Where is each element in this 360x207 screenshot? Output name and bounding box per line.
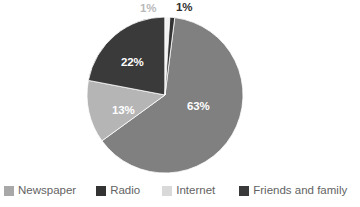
pie-chart-page: 63% 22% 13% 1% 1% Newspaper Radio Intern… xyxy=(0,0,360,207)
slice-label-newspaper: 63% xyxy=(187,101,210,113)
pie-chart-svg xyxy=(0,0,360,178)
pie-slice-group xyxy=(87,17,243,173)
pie-chart-plot-area: 63% 22% 13% 1% 1% xyxy=(0,0,360,178)
slice-label-friends-and-family: 22% xyxy=(121,57,144,69)
legend-item-friends-and-family[interactable]: Friends and family xyxy=(239,185,347,197)
legend-label-friends-and-family: Friends and family xyxy=(253,185,347,197)
legend-label-radio: Radio xyxy=(110,185,140,197)
legend-swatch-icon-friends-and-family xyxy=(239,186,249,196)
legend-label-newspaper: Newspaper xyxy=(18,185,76,197)
legend-item-internet[interactable]: Internet xyxy=(162,185,215,197)
legend-swatch-icon-newspaper xyxy=(4,186,14,196)
chart-legend: Newspaper Radio Internet Friends and fam… xyxy=(0,179,360,203)
legend-item-radio[interactable]: Radio xyxy=(96,185,140,197)
slice-label-radio: 1% xyxy=(176,2,192,14)
legend-item-newspaper[interactable]: Newspaper xyxy=(4,185,76,197)
legend-label-internet: Internet xyxy=(176,185,215,197)
legend-swatch-icon-radio xyxy=(96,186,106,196)
slice-label-other: 1% xyxy=(140,3,156,15)
legend-swatch-icon-internet xyxy=(162,186,172,196)
slice-label-internet: 13% xyxy=(112,105,135,117)
